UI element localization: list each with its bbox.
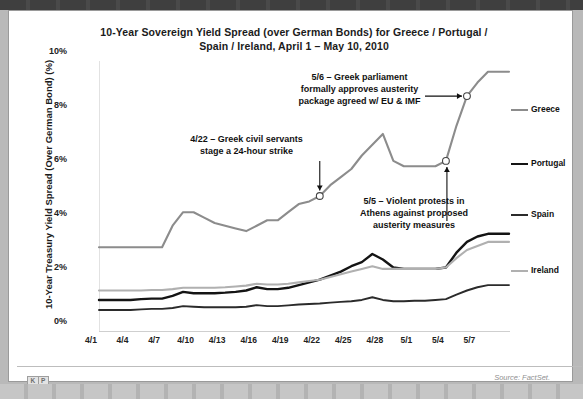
source-note: Source: FactSet. xyxy=(494,373,550,382)
annotation-4-22-line-1: 4/22 – Greek civil servants xyxy=(159,133,334,145)
legend-item-greece[interactable]: Greece xyxy=(511,104,560,114)
annotation-5-5-line-2: Athens against proposed xyxy=(339,207,489,219)
annotation-marker-4-22 xyxy=(316,193,323,200)
annotation-5-6-line-2: formally approves austerity xyxy=(277,83,442,95)
annotation-4-22-line-2: stage a 24-hour strike xyxy=(159,145,334,157)
legend-label: Ireland xyxy=(531,265,559,275)
top-decoration-band-texture xyxy=(0,0,583,10)
annotation-5-6-line-1: 5/6 – Greek parliament xyxy=(277,71,442,83)
annotation-4-22: 4/22 – Greek civil servants stage a 24-h… xyxy=(159,133,334,157)
annotation-5-5-line-1: 5/5 – Violent protests in xyxy=(339,195,489,207)
legend-item-spain[interactable]: Spain xyxy=(511,209,554,219)
annotation-4-22-arrow xyxy=(317,161,323,191)
annotation-5-6: 5/6 – Greek parliament formally approves… xyxy=(277,71,442,107)
slide-card: 10-Year Sovereign Yield Spread (over Ger… xyxy=(8,10,573,382)
bottom-decoration-band xyxy=(0,384,583,399)
legend-swatch-ireland xyxy=(511,270,528,272)
annotation-marker-5-6 xyxy=(464,93,471,100)
legend-label: Greece xyxy=(531,104,560,114)
legend-label: Spain xyxy=(531,209,554,219)
legend-item-portugal[interactable]: Portugal xyxy=(511,158,565,168)
legend-label: Portugal xyxy=(531,158,565,168)
legend-swatch-greece xyxy=(511,109,528,111)
annotation-5-6-line-3: package agreed w/ EU & IMF xyxy=(277,95,442,107)
footer-divider xyxy=(17,366,582,367)
annotation-5-5: 5/5 – Violent protests in Athens against… xyxy=(339,195,489,231)
annotation-marker-5-4 xyxy=(443,158,450,165)
legend-swatch-spain xyxy=(511,214,528,216)
chart-plot-area xyxy=(9,11,583,399)
legend-item-ireland[interactable]: Ireland xyxy=(511,265,559,275)
slide-root: 10-Year Sovereign Yield Spread (over Ger… xyxy=(0,0,583,399)
legend-swatch-portugal xyxy=(511,163,528,165)
annotation-5-5-line-3: austerity measures xyxy=(339,219,489,231)
